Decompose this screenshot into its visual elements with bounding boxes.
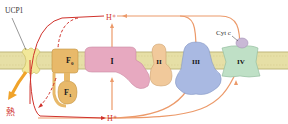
heat-arrow xyxy=(12,72,26,94)
complex-1-label: I xyxy=(110,57,113,66)
etc-diagram: I II III IV Cyt c F0 F1 UCP1 熱 H⁺ H⁺ xyxy=(0,0,288,124)
cytochrome-c xyxy=(236,38,248,48)
h-plus-intermembrane: H⁺ xyxy=(106,13,116,22)
heat-label: 熱 xyxy=(6,106,15,117)
cyt-c-label: Cyt c xyxy=(216,29,231,37)
complex-2-label: II xyxy=(156,58,162,66)
ucp1-label: UCP1 xyxy=(5,6,24,15)
complex-4-label: IV xyxy=(237,58,245,66)
ucp1-leader-line xyxy=(12,18,26,50)
complex-3 xyxy=(175,42,221,95)
h-plus-matrix: H⁺ xyxy=(107,114,117,123)
dashed-proton-path-atp-synthase xyxy=(58,18,78,48)
atp-synthase: F0 F1 xyxy=(52,49,78,106)
f0-subunit xyxy=(52,49,78,73)
cyt-c-leader-line xyxy=(232,36,238,41)
complex-3-label: III xyxy=(192,58,200,66)
arrowhead-up xyxy=(110,23,114,28)
arrowhead-left xyxy=(122,14,127,18)
